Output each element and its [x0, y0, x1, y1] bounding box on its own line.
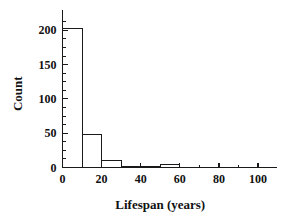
y-axis-title: Count: [10, 76, 25, 111]
x-tick-label: 60: [174, 172, 186, 186]
x-tick-label: 0: [60, 172, 66, 186]
x-tick-label: 100: [249, 172, 267, 186]
y-tick-label: 50: [45, 126, 57, 140]
y-tick-label: 0: [51, 161, 57, 175]
y-tick-label: 200: [39, 23, 57, 37]
histogram-bar: [102, 161, 122, 168]
x-tick-label: 20: [96, 172, 108, 186]
y-tick-label: 150: [39, 58, 57, 72]
x-tick-label: 80: [213, 172, 225, 186]
x-axis-title: Lifespan (years): [115, 197, 205, 212]
histogram-figure: 020406080100050100150200Lifespan (years)…: [0, 0, 283, 219]
x-tick-label: 40: [135, 172, 147, 186]
histogram-bar: [63, 29, 83, 168]
y-tick-label: 100: [39, 92, 57, 106]
chart-canvas: 020406080100050100150200Lifespan (years)…: [0, 0, 283, 219]
histogram-bar: [82, 135, 102, 168]
